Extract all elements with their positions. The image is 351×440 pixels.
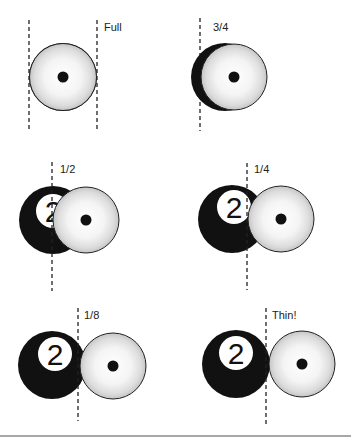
diagram-label: 1/2 [60,163,75,175]
cue-ball-center-dot [108,361,119,372]
diagram-thin: 2 Thin! [202,308,335,425]
object-ball-number: 2 [228,337,245,370]
diagram-half: 2 1/2 [19,162,119,291]
ball-hit-fractions-diagram: Full 3/4 2 1/2 2 1/4 2 1/8 [0,0,351,440]
diagram-eighth: 2 1/8 [18,308,146,421]
diagram-quarter: 2 1/4 [198,163,314,290]
diagram-label: Thin! [272,309,296,321]
cue-ball-center-dot [81,215,92,226]
diagram-label: 1/8 [84,309,99,321]
object-ball-number: 2 [226,191,243,224]
cue-ball-center-dot [276,214,287,225]
diagram-label: Full [104,21,122,33]
diagram-label: 3/4 [213,21,228,33]
diagram-label: 1/4 [254,163,269,175]
cue-ball-center-dot [58,72,69,83]
cue-ball-center-dot [229,72,240,83]
diagram-full: Full [29,20,122,132]
diagram-three-quarter: 3/4 [191,18,267,131]
object-ball-number: 2 [47,338,64,371]
cue-ball-center-dot [297,359,308,370]
